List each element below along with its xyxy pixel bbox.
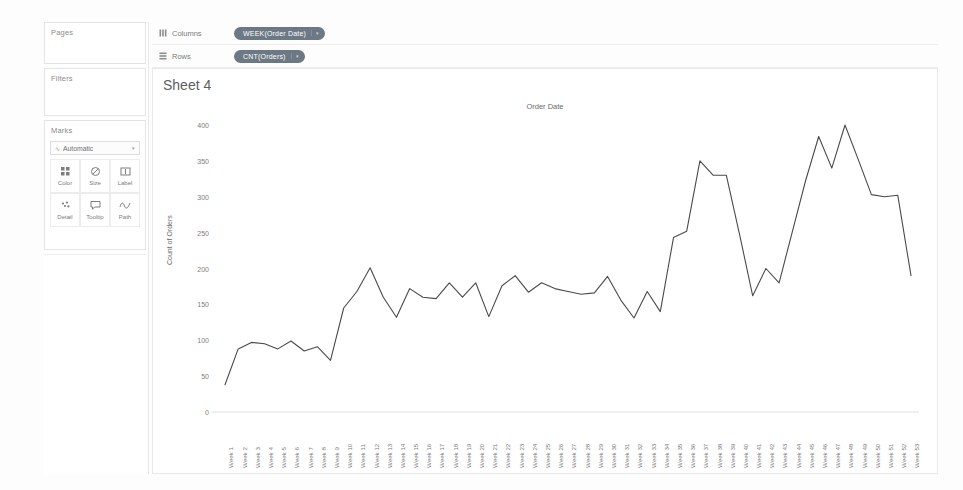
x-axis-tick: Week 23 (518, 444, 525, 468)
marks-label-label: Label (118, 180, 133, 186)
x-axis-tick: Week 8 (320, 447, 327, 468)
x-axis-tick: Week 42 (768, 444, 775, 468)
x-axis-tick: Week 29 (597, 444, 604, 468)
x-axis-tick: Week 4 (267, 447, 274, 468)
x-axis-tick: Week 20 (478, 444, 485, 468)
x-axis-tick: Week 36 (689, 444, 696, 468)
x-axis-tick: Week 24 (531, 444, 538, 468)
x-axis-tick: Week 51 (887, 444, 894, 468)
pages-card-title: Pages (45, 23, 145, 37)
y-axis-tick: 350 (173, 157, 209, 164)
x-axis-tick: Week 18 (452, 444, 459, 468)
y-axis-ticks: 050100150200250300350400 (153, 69, 209, 473)
data-line-count-of-orders[interactable] (225, 125, 911, 385)
y-axis-tick: 100 (173, 337, 209, 344)
x-axis-tick: Week 7 (307, 447, 314, 468)
tooltip-icon (90, 200, 101, 211)
x-axis-tick: Week 19 (465, 444, 472, 468)
pill-cnt-orders[interactable]: CNT(Orders) ▾ (234, 50, 305, 63)
pill-week-order-date[interactable]: WEEK(Order Date) ▾ (234, 27, 325, 40)
marks-detail-label: Detail (57, 214, 72, 220)
x-axis-tick: Week 2 (241, 447, 248, 468)
x-axis-tick: Week 52 (900, 444, 907, 468)
chevron-down-icon[interactable]: ▾ (311, 30, 321, 36)
marks-color-label: Color (58, 180, 72, 186)
marks-buttons: Color Size (50, 159, 140, 227)
y-axis-tick: 300 (173, 193, 209, 200)
pill-cnt-orders-label: CNT(Orders) (243, 53, 286, 60)
x-axis-tick: Week 28 (584, 444, 591, 468)
marks-path-button[interactable]: Path (110, 193, 140, 227)
y-axis-tick: 400 (173, 122, 209, 129)
x-axis-tick: Week 13 (386, 444, 393, 468)
pill-week-order-date-label: WEEK(Order Date) (243, 30, 306, 37)
marks-detail-button[interactable]: Detail (50, 193, 80, 227)
marks-size-label: Size (89, 180, 101, 186)
x-axis-tick: Week 35 (676, 444, 683, 468)
x-axis-tick: Week 31 (623, 444, 630, 468)
x-axis-tick: Week 49 (861, 444, 868, 468)
x-axis-tick: Week 22 (504, 444, 511, 468)
marks-tooltip-label: Tooltip (86, 214, 103, 220)
marks-label-button[interactable]: Label (110, 159, 140, 193)
marks-color-button[interactable]: Color (50, 159, 80, 193)
marks-tooltip-button[interactable]: Tooltip (80, 193, 110, 227)
mark-type-icon: ∿ (55, 145, 60, 152)
x-axis-tick: Week 46 (821, 444, 828, 468)
x-axis-tick: Week 17 (438, 444, 445, 468)
columns-shelf[interactable]: Columns WEEK(Order Date) ▾ (152, 22, 938, 45)
y-axis-tick: 250 (173, 229, 209, 236)
x-axis-tick: Week 48 (847, 444, 854, 468)
label-icon (120, 166, 131, 177)
y-axis-tick: 0 (173, 409, 209, 416)
worksheet-view: Sheet 4 Order Date Count of Orders 05010… (152, 68, 938, 474)
x-axis-tick: Week 21 (491, 444, 498, 468)
pages-card: Pages (44, 22, 146, 64)
x-axis-tick: Week 16 (425, 444, 432, 468)
mark-type-dropdown[interactable]: ∿ Automatic ▾ (50, 141, 140, 155)
x-axis-tick: Week 12 (373, 444, 380, 468)
x-axis-tick: Week 37 (702, 444, 709, 468)
x-axis-tick: Week 45 (808, 444, 815, 468)
x-axis-tick: Week 34 (663, 444, 670, 468)
rows-shelf-label: Rows (172, 52, 234, 61)
empty-panel-area (44, 254, 146, 472)
color-icon (60, 166, 71, 177)
x-axis-tick: Week 53 (913, 444, 920, 468)
detail-icon (60, 200, 71, 211)
y-axis-tick: 150 (173, 301, 209, 308)
x-axis-tick: Week 41 (755, 444, 762, 468)
x-axis-tick: Week 39 (729, 444, 736, 468)
x-axis-tick: Week 14 (399, 444, 406, 468)
x-axis-tick: Week 38 (716, 444, 723, 468)
marks-size-button[interactable]: Size (80, 159, 110, 193)
columns-icon (158, 29, 167, 38)
shelf-area: Columns WEEK(Order Date) ▾ Rows CNT(Orde… (152, 22, 938, 68)
chevron-down-icon[interactable]: ▾ (291, 53, 301, 59)
marks-card: Marks ∿ Automatic ▾ Color (44, 120, 146, 250)
x-axis-tick: Week 10 (346, 444, 353, 468)
x-axis-tick: Week 44 (795, 444, 802, 468)
x-axis-tick: Week 3 (254, 447, 261, 468)
size-icon (90, 166, 101, 177)
x-axis-tick: Week 26 (557, 444, 564, 468)
rows-icon (158, 52, 167, 61)
x-axis-tick: Week 25 (544, 444, 551, 468)
x-axis-tick: Week 33 (650, 444, 657, 468)
x-axis-tick: Week 32 (636, 444, 643, 468)
columns-shelf-label: Columns (172, 29, 234, 38)
chevron-down-icon: ▾ (132, 145, 135, 151)
rows-shelf[interactable]: Rows CNT(Orders) ▾ (152, 45, 938, 68)
x-axis-tick: Week 6 (293, 447, 300, 468)
x-axis-tick: Week 9 (333, 447, 340, 468)
filters-card: Filters (44, 68, 146, 116)
left-panel: Pages Filters Marks ∿ Automatic ▾ (44, 22, 149, 474)
x-axis-tick: Week 50 (874, 444, 881, 468)
y-axis-tick: 200 (173, 265, 209, 272)
marks-path-label: Path (119, 214, 131, 220)
path-icon (119, 200, 131, 211)
filters-card-title: Filters (45, 69, 145, 83)
x-axis-ticks: Week 1Week 2Week 3Week 4Week 5Week 6Week… (211, 414, 929, 474)
x-axis-tick: Week 5 (280, 447, 287, 468)
x-axis-tick: Week 43 (781, 444, 788, 468)
